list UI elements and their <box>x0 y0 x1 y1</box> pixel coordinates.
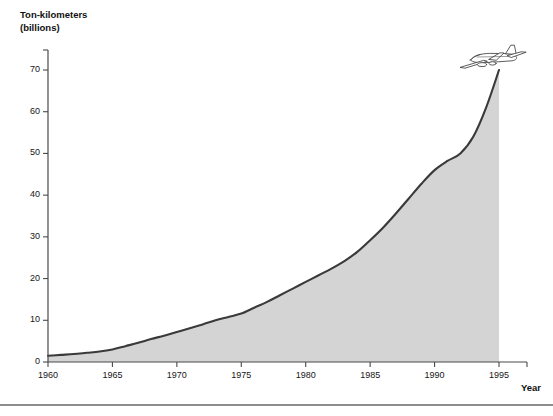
footer-divider <box>0 404 553 406</box>
airplane-icon <box>460 45 526 68</box>
y-axis-ticks <box>43 50 48 362</box>
y-tick-label: 20 <box>18 273 40 283</box>
x-tick-label: 1975 <box>224 370 258 380</box>
x-axis-ticks <box>48 362 527 367</box>
area-series-group <box>48 70 499 362</box>
x-tick-label: 1985 <box>353 370 387 380</box>
x-tick-label: 1965 <box>95 370 129 380</box>
plot-area <box>0 0 553 416</box>
y-tick-label: 70 <box>18 64 40 74</box>
y-tick-label: 10 <box>18 314 40 324</box>
x-tick-label: 1980 <box>289 370 323 380</box>
x-tick-label: 1970 <box>160 370 194 380</box>
area-series-fill <box>48 70 499 362</box>
x-tick-label: 1960 <box>31 370 65 380</box>
x-tick-label: 1990 <box>418 370 452 380</box>
y-tick-label: 30 <box>18 231 40 241</box>
y-tick-label: 50 <box>18 147 40 157</box>
chart-figure: Ton-kilometers (billions) Year <box>0 0 553 416</box>
y-tick-label: 0 <box>18 356 40 366</box>
x-tick-label: 1995 <box>482 370 516 380</box>
y-tick-label: 40 <box>18 189 40 199</box>
y-tick-label: 60 <box>18 106 40 116</box>
